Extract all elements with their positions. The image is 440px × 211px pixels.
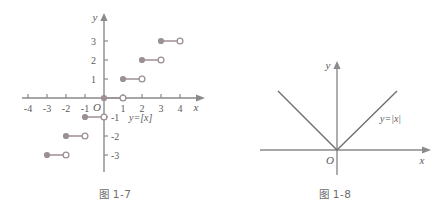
x-tick-label-3: 3	[159, 103, 164, 114]
open-point-2	[139, 76, 145, 82]
y-axis-label: y	[325, 59, 331, 71]
y-tick-label-3: 3	[91, 36, 96, 47]
origin-label: O	[93, 101, 101, 113]
y-axis-arrow-icon	[100, 13, 107, 21]
x-tick-label--3: -3	[43, 103, 51, 114]
y-tick-label-2: 2	[91, 55, 96, 66]
curve-label-abs: y=|x|	[379, 113, 401, 124]
closed-point-1	[120, 76, 126, 82]
closed-point-2	[139, 57, 145, 63]
y-tick-label-1: 1	[91, 74, 96, 85]
y-axis-arrow-icon	[333, 61, 340, 69]
open-point--2	[63, 152, 69, 158]
x-axis-arrow-icon	[422, 146, 431, 153]
figure-pair-container: x y O -4 -3 -2 -1 1 2 3 4 3 2 1 -1 -2 -3…	[0, 0, 440, 211]
y-tick-label--2: -2	[111, 131, 119, 142]
open-point-3	[158, 57, 164, 63]
open-point-4	[177, 38, 183, 44]
figure-1-8: x y O y=|x| 图 1-8	[230, 0, 440, 211]
closed-point-3	[158, 38, 164, 44]
x-tick-label-1: 1	[121, 103, 126, 114]
figure-caption-1-7: 图 1-7	[0, 186, 230, 201]
closed-point--3	[44, 152, 50, 158]
closed-point--1	[82, 114, 88, 120]
y-axis-label: y	[92, 11, 98, 23]
x-tick-label-4: 4	[178, 103, 183, 114]
figure-caption-1-8: 图 1-8	[230, 186, 440, 201]
closed-point-0	[101, 95, 107, 101]
y-tick-label--1: -1	[111, 112, 119, 123]
origin-label: O	[326, 154, 334, 166]
step-function-plot: x y O -4 -3 -2 -1 1 2 3 4 3 2 1 -1 -2 -3…	[0, 0, 230, 186]
x-tick-label--4: -4	[24, 103, 32, 114]
x-tick-label--2: -2	[62, 103, 70, 114]
x-tick-label--1: -1	[81, 103, 89, 114]
figure-1-7: x y O -4 -3 -2 -1 1 2 3 4 3 2 1 -1 -2 -3…	[0, 0, 230, 211]
open-point-0	[101, 114, 107, 120]
x-axis-label: x	[193, 101, 199, 113]
open-point--1	[82, 133, 88, 139]
open-point-1	[120, 95, 126, 101]
absolute-value-plot: x y O y=|x|	[230, 0, 440, 186]
y-tick-label--3: -3	[111, 150, 119, 161]
closed-point--2	[63, 133, 69, 139]
curve-label-step: y=[x]	[128, 112, 153, 123]
x-axis-label: x	[419, 154, 425, 166]
